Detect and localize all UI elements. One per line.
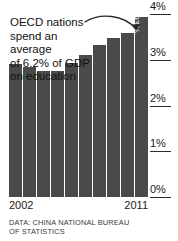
x-axis-labels: 2002 2011 xyxy=(9,199,148,213)
bar-chart: 3.93% 4%3%2%1%0% 2002 2011 OECD nations … xyxy=(0,0,178,241)
y-axis-tick-line xyxy=(150,106,171,107)
bar-2010 xyxy=(121,33,134,197)
bar-2004 xyxy=(37,71,50,197)
y-axis-tick-label: 4% xyxy=(150,1,166,12)
y-axis-tick-line xyxy=(150,14,171,15)
y-axis-tick-label: 0% xyxy=(150,184,166,195)
source-note: DATA: CHINA NATIONAL BUREAU OF STATISTIC… xyxy=(9,218,174,237)
y-axis-tick-label: 2% xyxy=(150,93,166,104)
y-axis: 4%3%2%1%0% xyxy=(150,0,178,241)
bar-2011: 3.93% xyxy=(135,17,148,197)
y-axis-tick-line xyxy=(150,60,171,61)
x-axis-label-last: 2011 xyxy=(124,199,148,212)
y-axis-tick-label: 3% xyxy=(150,47,166,58)
y-axis-tick-label: 1% xyxy=(150,138,166,149)
bar-2005 xyxy=(51,71,64,197)
bar-2003 xyxy=(23,67,36,197)
curved-arrow-icon xyxy=(84,12,146,42)
bar-2009 xyxy=(107,38,120,197)
y-axis-tick-line xyxy=(150,151,171,152)
bar-2002 xyxy=(9,64,22,197)
y-axis-tick-line xyxy=(150,197,171,198)
x-axis-label-first: 2002 xyxy=(9,199,33,212)
